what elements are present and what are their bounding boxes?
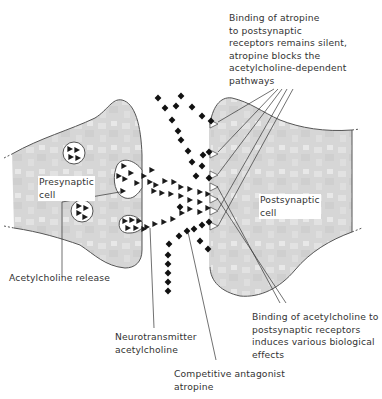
presynaptic-cut-top — [4, 154, 12, 158]
vesicle-lower — [71, 200, 93, 222]
fusing-vesicle-upper — [114, 160, 142, 198]
presynaptic-cut-bottom — [4, 226, 14, 228]
presynaptic-cell-label: Presynaptic cell — [38, 176, 95, 201]
postsynaptic-cell-label: Postsynaptic cell — [259, 194, 321, 219]
neurotransmitter-label: Neurotransmitter acetylcholine — [115, 331, 197, 356]
acetylcholine-release-label: Acetylcholine release — [9, 272, 110, 285]
postsynaptic-cut-top — [352, 129, 360, 130]
postsynaptic-cut-bottom — [352, 228, 362, 232]
acetylcholine-binding-label: Binding of acetylcholine to postsynaptic… — [252, 311, 379, 361]
vesicle-upper — [63, 142, 85, 164]
atropine-binding-label: Binding of atropine to postsynaptic rece… — [229, 12, 347, 88]
antagonist-label: Competitive antagonist atropine — [174, 368, 285, 393]
